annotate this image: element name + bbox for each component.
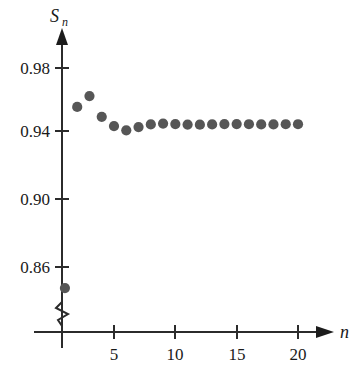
data-point: [133, 122, 143, 132]
data-point: [268, 119, 278, 129]
y-tick-label-0.94: 0.94: [20, 122, 50, 141]
data-point: [84, 91, 94, 101]
data-point: [256, 119, 266, 129]
scatter-chart: S n n 0.98 0.94 0.90 0.86 5 10: [0, 0, 356, 385]
data-point: [207, 119, 217, 129]
data-point: [244, 119, 254, 129]
data-point: [232, 119, 242, 129]
data-point: [121, 125, 131, 135]
x-tick-label-10: 10: [167, 345, 184, 364]
x-axis-title: n: [340, 322, 349, 342]
data-point: [170, 119, 180, 129]
data-point: [293, 119, 303, 129]
data-point: [183, 119, 193, 129]
data-point: [60, 283, 70, 293]
y-tick-label-0.98: 0.98: [20, 59, 50, 78]
y-tick-label-0.86: 0.86: [20, 258, 50, 277]
data-point: [146, 119, 156, 129]
x-axis-arrow-icon: [316, 326, 334, 338]
y-tick-label-0.90: 0.90: [20, 190, 50, 209]
data-point: [158, 119, 168, 129]
data-point: [281, 119, 291, 129]
data-point: [72, 102, 82, 112]
data-point: [109, 121, 119, 131]
x-tick-group: 5 10 15 20: [110, 325, 307, 364]
plot-canvas: S n n 0.98 0.94 0.90 0.86 5 10: [0, 0, 356, 385]
data-point: [97, 112, 107, 122]
y-axis-title: S: [50, 6, 59, 26]
x-tick-label-5: 5: [110, 345, 119, 364]
x-tick-label-15: 15: [229, 345, 246, 364]
data-point: [195, 120, 205, 130]
x-tick-label-20: 20: [290, 345, 307, 364]
y-axis-arrow-icon: [56, 28, 68, 45]
data-point: [219, 119, 229, 129]
y-axis-title-subscript: n: [62, 15, 68, 29]
data-point-layer: [60, 91, 303, 293]
